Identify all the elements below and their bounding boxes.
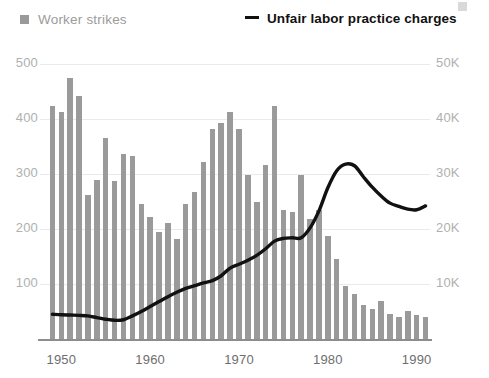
y-axis-left-tick-label: 200 [4, 220, 38, 235]
unfair-labor-practice-line [52, 164, 425, 321]
decorative-square-icon [458, 2, 467, 11]
legend-label-unfair-labor-practice-charges: Unfair labor practice charges [267, 11, 457, 26]
legend-item-worker-strikes[interactable]: Worker strikes [20, 12, 127, 27]
x-axis-tick-label: 1980 [313, 352, 343, 367]
line-path-svg [48, 64, 430, 339]
legend-item-unfair-labor-practice-charges[interactable]: Unfair labor practice charges [245, 11, 457, 26]
square-swatch-icon [20, 15, 29, 24]
x-axis-tick-label: 1970 [224, 352, 254, 367]
y-axis-right-tick-label: 20K [436, 220, 460, 235]
y-axis-left-tick-label: 300 [4, 165, 38, 180]
y-axis-right-tick-label: 40K [436, 110, 460, 125]
x-axis-tick-label: 1960 [135, 352, 165, 367]
line-series-unfair-labor-practice-charges [48, 64, 430, 339]
line-swatch-icon [245, 16, 259, 19]
plot-area: 500400300200100 50K40K30K20K10K 19501960… [48, 64, 430, 339]
y-axis-right-tick-label: 50K [436, 55, 460, 70]
x-axis-tick-label: 1990 [402, 352, 432, 367]
y-axis-right-tick-label: 30K [436, 165, 460, 180]
chart-root: Worker strikes Unfair labor practice cha… [0, 0, 489, 378]
x-axis-tick-label: 1950 [46, 352, 76, 367]
axis-baseline [38, 339, 432, 341]
y-axis-left-tick-label: 400 [4, 110, 38, 125]
y-axis-left-tick-label: 500 [4, 55, 38, 70]
chart-legend: Worker strikes Unfair labor practice cha… [0, 0, 489, 34]
y-axis-right-tick-label: 10K [436, 275, 460, 290]
legend-label-worker-strikes: Worker strikes [38, 12, 127, 27]
y-axis-left-tick-label: 100 [4, 275, 38, 290]
